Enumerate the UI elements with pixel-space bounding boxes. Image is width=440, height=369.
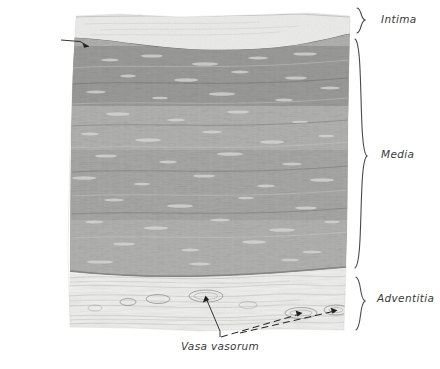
label-intima: Intima — [381, 14, 417, 26]
tissue-block — [60, 5, 360, 337]
artery-wall-histology-figure — [0, 0, 440, 369]
layer-media — [60, 30, 360, 280]
label-adventitia: Adventitia — [377, 293, 434, 305]
label-vasa-vasorum: Vasa vasorum — [181, 341, 259, 353]
label-media: Media — [381, 149, 414, 161]
